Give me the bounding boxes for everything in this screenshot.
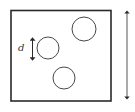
circle-bottom xyxy=(53,67,75,89)
circle-top-right xyxy=(72,17,96,41)
diameter-label: d xyxy=(18,43,24,53)
diagram-canvas: d xyxy=(0,0,135,112)
diagram-svg xyxy=(0,0,135,112)
circle-middle-left xyxy=(37,37,59,59)
container-square xyxy=(11,11,111,102)
